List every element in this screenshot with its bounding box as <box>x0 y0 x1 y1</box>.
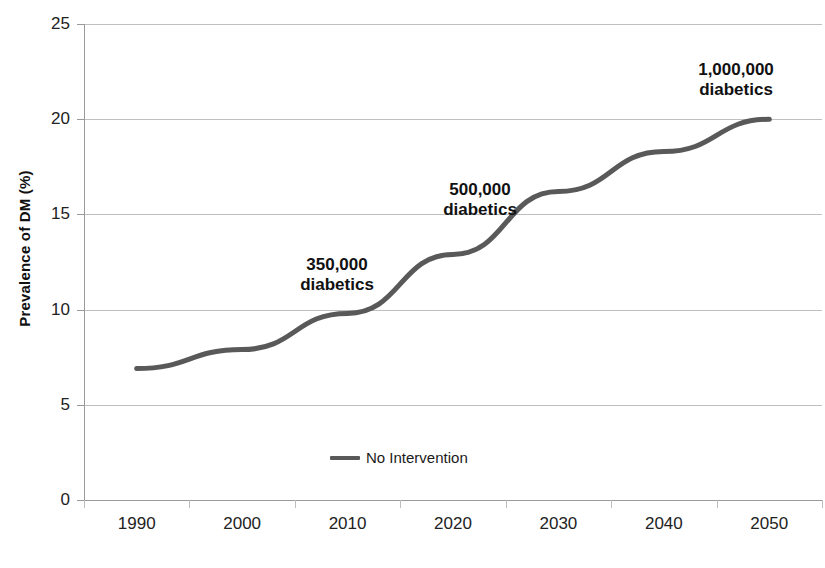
x-tick-label-2040: 2040 <box>612 514 716 534</box>
annotation-1000000-diabetics: 1,000,000 diabetics <box>648 60 824 99</box>
y-tick-mark-15 <box>77 214 85 215</box>
legend: No Intervention <box>330 449 468 466</box>
x-tick-mark-0 <box>84 500 85 508</box>
legend-label-no-intervention: No Intervention <box>366 449 468 466</box>
annotation-500000-diabetics: 500,000 diabetics <box>395 180 565 219</box>
y-tick-label-20: 20 <box>24 110 70 127</box>
legend-swatch-no-intervention <box>330 456 360 460</box>
y-tick-label-10: 10 <box>24 301 70 318</box>
y-tick-label-5: 5 <box>24 396 70 413</box>
y-tick-mark-5 <box>77 405 85 406</box>
y-tick-label-25: 25 <box>24 15 70 32</box>
x-tick-mark-3 <box>400 500 401 508</box>
x-tick-label-2030: 2030 <box>506 514 610 534</box>
y-tick-mark-20 <box>77 119 85 120</box>
line-chart: Prevalence of DM (%) 25 20 15 10 5 0 199… <box>0 0 825 568</box>
y-tick-mark-10 <box>77 310 85 311</box>
x-tick-mark-4 <box>506 500 507 508</box>
x-tick-label-2020: 2020 <box>401 514 505 534</box>
x-tick-mark-6 <box>717 500 718 508</box>
x-axis-line <box>84 500 822 501</box>
gridline-10 <box>84 310 822 311</box>
y-axis-line <box>84 24 85 501</box>
y-axis-tick-labels: 25 20 15 10 5 0 <box>18 0 70 568</box>
gridline-20 <box>84 119 822 120</box>
x-tick-mark-1 <box>189 500 190 508</box>
y-tick-label-0: 0 <box>24 491 70 508</box>
x-tick-label-1990: 1990 <box>85 514 189 534</box>
y-tick-mark-25 <box>77 24 85 25</box>
x-tick-label-2010: 2010 <box>296 514 400 534</box>
x-tick-mark-5 <box>611 500 612 508</box>
y-tick-label-15: 15 <box>24 205 70 222</box>
gridline-25 <box>84 24 822 25</box>
gridline-5 <box>84 405 822 406</box>
x-tick-mark-2 <box>295 500 296 508</box>
annotation-350000-diabetics: 350,000 diabetics <box>252 255 422 294</box>
x-tick-label-2000: 2000 <box>190 514 294 534</box>
x-tick-label-2050: 2050 <box>717 514 821 534</box>
x-tick-mark-7 <box>822 500 823 508</box>
